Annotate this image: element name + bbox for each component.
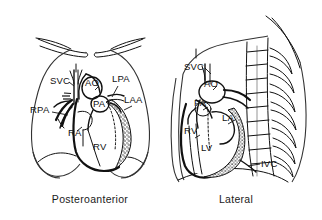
caption-lateral: Lateral [219,193,253,205]
label-ao-lat: AO [204,78,218,89]
label-rpa-pa: RPA [30,104,50,115]
caption-posteroanterior: Posteroanterior [52,193,128,205]
label-lv-lat: LV [201,142,213,153]
label-la-lat: LA [222,112,234,123]
label-ao-pa: AO [85,77,99,88]
label-lpa-pa: LPA [112,73,130,84]
label-rv-pa: RV [93,141,107,152]
label-svc-pa: SVC [50,75,70,86]
label-svc-lat: SVC [184,61,204,72]
label-ivc-lat: IVC [261,158,277,169]
chest-radiograph-diagram: SVC AO LPA PA LAA RPA RA RV Posteroanter… [0,0,322,220]
label-pa-pa: PA [93,98,106,109]
label-ra-pa: RA [68,127,82,138]
label-pa-lat: PA [194,97,207,108]
figure-canvas: SVC AO LPA PA LAA RPA RA RV Posteroanter… [0,0,322,220]
label-rv-lat: RV [184,125,198,136]
label-laa-pa: LAA [124,94,143,105]
